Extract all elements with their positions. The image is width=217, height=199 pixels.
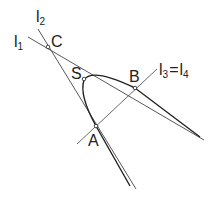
point-C xyxy=(46,45,50,49)
line-l1 xyxy=(28,37,204,140)
point-S xyxy=(82,77,86,81)
point-B xyxy=(133,86,137,90)
diagram-canvas: l1 l2 C S B A l3=l4 xyxy=(0,0,217,199)
label-C: C xyxy=(51,33,63,50)
label-l3-eq-l4: l3=l4 xyxy=(159,61,189,80)
label-A: A xyxy=(88,132,99,149)
label-l2: l2 xyxy=(36,8,46,27)
label-l1: l1 xyxy=(14,33,24,52)
line-l2 xyxy=(38,29,136,189)
point-A xyxy=(94,124,98,128)
label-S: S xyxy=(71,65,82,82)
label-B: B xyxy=(129,68,140,85)
